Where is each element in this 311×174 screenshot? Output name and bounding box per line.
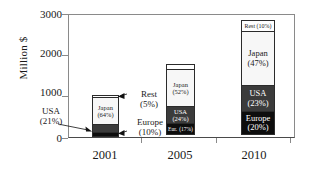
x-tick-label-2001: 2001 [75,148,135,163]
callout-line-2: (5%) [128,99,170,109]
x-tick-mark-2005 [216,138,217,143]
segment-label-pct: (52%) [172,88,188,95]
segment-label-rest-2010: Rest (10%) [244,23,271,29]
callout-rest-2001: Rest (5%) [128,89,170,109]
y-tick-label-0: 0 [22,133,62,143]
x-tick-label-2010: 2010 [224,148,284,163]
callout-line-1: USA [30,106,72,116]
segment-label-name: Japan [98,104,113,111]
bar-2010: Rest (10%) Japan (47%) USA (23%) Europe … [241,20,275,138]
y-tick-mark-0 [62,138,68,139]
bar-segment-2005-japan: Japan (52%) [166,69,195,107]
callout-line-1: Rest [128,89,170,99]
bar-segment-2010-usa: USA (23%) [241,85,275,112]
segment-label-pct: (20%) [247,123,268,133]
segment-label-name: USA [174,108,187,115]
y-tick-label-1000: 1000 [22,87,62,97]
segment-label-pct: (23%) [247,99,268,109]
bar-2001: Japan (64%) [92,95,119,138]
bar-segment-2010-europe: Europe (20%) [241,111,275,135]
segment-label-pct: (64%) [97,111,113,118]
x-tick-mark-2001 [141,138,142,143]
bar-segment-2010-japan: Japan (47%) [241,31,275,86]
segment-label-pct: (47%) [247,59,268,69]
segment-label-name: Japan [173,81,188,88]
callout-line-2: (21%) [30,116,72,126]
callout-line-1: Europe [126,117,174,127]
bar-segment-2001-japan: Japan (64%) [92,97,119,125]
bar-segment-2001-europe [92,132,119,137]
y-tick-label-2000: 2000 [22,48,62,58]
segment-label-pct: (24%) [172,115,188,122]
y-tick-label-3000: 3000 [22,9,62,19]
x-tick-label-2005: 2005 [150,148,210,163]
callout-usa-2001: USA (21%) [30,106,72,126]
chart-container: Million $ 3000 2000 1000 0 2001 2005 201… [0,0,311,174]
x-tick-mark-2010 [290,138,291,143]
segment-label-pct: (17%) [179,126,193,132]
callout-line-2: (10%) [126,127,174,137]
callout-europe-2001: Europe (10%) [126,117,174,137]
